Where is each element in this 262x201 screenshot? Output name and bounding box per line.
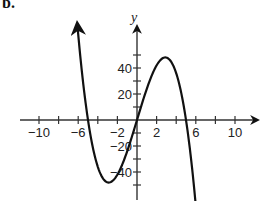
function-curve [77, 23, 200, 201]
y-tick-label: 20 [118, 87, 132, 102]
x-tick-label: 2 [153, 125, 160, 140]
cubic-graph: b. −10−6−226104020−20−40 y [0, 0, 262, 201]
part-label: b. [2, 0, 15, 11]
cubic-curve [77, 23, 200, 201]
x-tick-label: −2 [110, 125, 125, 140]
y-axis-label: y [129, 10, 138, 25]
x-tick-label: 10 [228, 125, 242, 140]
y-tick-label: 40 [118, 61, 132, 76]
x-tick-label: 6 [192, 125, 199, 140]
x-tick-label: −6 [71, 125, 86, 140]
x-tick-label: −10 [28, 125, 50, 140]
chart-container: b. −10−6−226104020−20−40 y [0, 0, 262, 201]
